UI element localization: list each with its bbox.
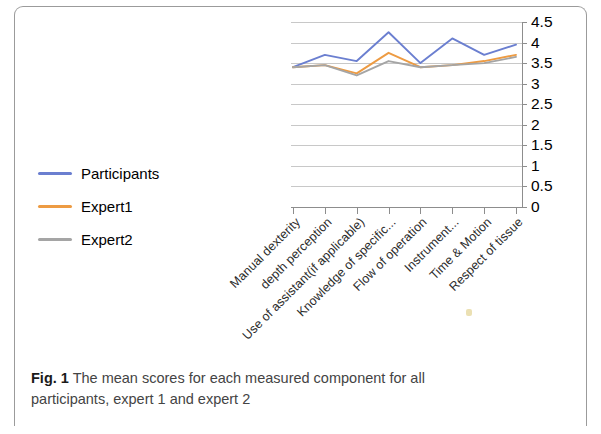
- x-axis-label-7: Respect of tissue: [447, 215, 526, 294]
- y-axis-tick-label: 1: [531, 158, 540, 174]
- legend-item-expert1: Expert1: [38, 190, 218, 223]
- y-tick: [522, 43, 527, 44]
- y-tick: [522, 63, 527, 64]
- scan-artifact-speck: [466, 309, 472, 316]
- legend-label: Participants: [81, 165, 159, 182]
- legend-item-participants: Participants: [38, 157, 218, 190]
- x-tick: [293, 208, 294, 214]
- y-tick: [522, 125, 527, 126]
- x-tick: [357, 208, 358, 214]
- y-tick: [522, 207, 527, 208]
- x-axis-label-4: Flow of operation: [351, 215, 430, 294]
- y-axis-tick-label: 2.5: [531, 96, 553, 112]
- y-axis-line: [522, 22, 523, 208]
- figure-number: Fig. 1: [31, 370, 69, 386]
- y-axis-tick-label: 3: [531, 76, 540, 92]
- legend-color-swatch: [38, 205, 72, 208]
- x-axis-label-1: depth perception: [258, 215, 335, 292]
- figure-caption: Fig. 1 The mean scores for each measured…: [31, 368, 431, 410]
- y-tick: [522, 104, 527, 105]
- x-axis-label-5: Instrument...: [402, 215, 462, 275]
- x-tick: [389, 208, 390, 214]
- y-tick: [522, 22, 527, 23]
- y-tick: [522, 84, 527, 85]
- x-tick: [452, 208, 453, 214]
- y-axis-tick-label: 3.5: [531, 55, 553, 71]
- x-axis-label-0: Manual dexterity: [227, 215, 303, 291]
- y-tick: [522, 166, 527, 167]
- x-axis-label-2: Use of assistant(if applicable): [239, 215, 367, 343]
- x-tick: [516, 208, 517, 214]
- chart-legend: ParticipantsExpert1Expert2: [38, 157, 218, 256]
- y-axis-tick-label: 4.5: [531, 14, 553, 30]
- x-tick: [325, 208, 326, 214]
- y-axis-tick-label: 0: [531, 199, 540, 215]
- y-axis-tick-label: 4: [531, 35, 540, 51]
- series-lines: [291, 22, 522, 207]
- x-tick: [484, 208, 485, 214]
- legend-color-swatch: [38, 238, 72, 241]
- y-axis-tick-label: 2: [531, 117, 540, 133]
- plot-area: [291, 22, 522, 207]
- y-axis-tick-label: 1.5: [531, 137, 553, 153]
- legend-item-expert2: Expert2: [38, 223, 218, 256]
- x-axis-label-3: Knowledge of specific...: [294, 215, 398, 319]
- legend-color-swatch: [38, 172, 72, 175]
- x-axis-label-6: Time & Motion: [427, 215, 494, 282]
- legend-label: Expert2: [81, 231, 133, 248]
- chart: 4.543.532.521.510.50 Manual dexteritydep…: [0, 0, 601, 352]
- y-axis-tick-label: 0.5: [531, 178, 553, 194]
- y-tick: [522, 186, 527, 187]
- legend-label: Expert1: [81, 198, 133, 215]
- y-tick: [522, 145, 527, 146]
- x-tick: [420, 208, 421, 214]
- figure-caption-text: The mean scores for each measured compon…: [31, 370, 425, 407]
